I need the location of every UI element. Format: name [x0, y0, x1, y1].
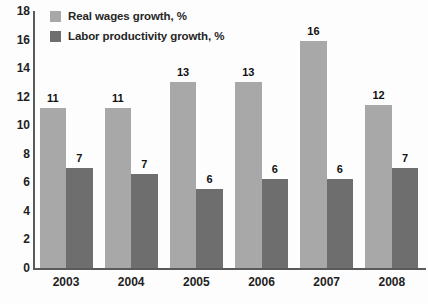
bar-group: 166 — [300, 11, 353, 268]
y-axis-tick-label: 12 — [0, 90, 30, 104]
bar-group: 127 — [365, 11, 418, 268]
y-axis-tick-label: 4 — [0, 204, 30, 218]
bar-value-label: 11 — [105, 92, 132, 104]
x-axis-tick-labels: 200320042005200620072008 — [35, 275, 426, 299]
bar-value-label: 6 — [262, 163, 289, 175]
y-axis-tick-label: 0 — [0, 261, 30, 275]
bar[interactable] — [105, 108, 132, 268]
x-axis-tick-label: 2006 — [227, 275, 296, 289]
bar[interactable] — [327, 179, 354, 268]
bar-group: 117 — [40, 11, 93, 268]
y-axis-tick-label: 6 — [0, 175, 30, 189]
legend-swatch-icon — [50, 11, 61, 22]
x-axis-tick-label: 2003 — [32, 275, 101, 289]
bar-value-label: 7 — [131, 158, 158, 170]
bar[interactable] — [365, 105, 392, 268]
x-axis-tick-label: 2008 — [357, 275, 426, 289]
bar-value-label: 16 — [300, 25, 327, 37]
bar-group: 136 — [235, 11, 288, 268]
y-axis-tick-label: 2 — [0, 232, 30, 246]
x-axis-tick-label: 2005 — [162, 275, 231, 289]
bar-value-label: 6 — [327, 163, 354, 175]
x-axis-line — [33, 268, 426, 270]
y-axis-tick-label: 8 — [0, 147, 30, 161]
bar[interactable] — [131, 174, 158, 268]
bar-value-label: 12 — [365, 89, 392, 101]
bar[interactable] — [40, 108, 67, 268]
bar[interactable] — [170, 82, 197, 268]
bar-value-label: 7 — [66, 152, 93, 164]
y-axis-tick-label: 18 — [0, 4, 30, 18]
x-axis-tick-label: 2004 — [97, 275, 166, 289]
y-axis-tick-label: 10 — [0, 118, 30, 132]
plot-area: 117117136136166127 — [35, 11, 426, 268]
bar[interactable] — [66, 168, 93, 268]
bar-group: 136 — [170, 11, 223, 268]
bar-value-label: 13 — [170, 66, 197, 78]
bar[interactable] — [196, 189, 223, 268]
bar-value-label: 7 — [392, 152, 419, 164]
bar-value-label: 13 — [235, 66, 262, 78]
bar-group: 117 — [105, 11, 158, 268]
legend-item[interactable]: Labor productivity growth, % — [50, 26, 224, 46]
bar[interactable] — [262, 179, 289, 268]
bar-chart: Real wages growth, %Labor productivity g… — [0, 0, 428, 304]
bar[interactable] — [392, 168, 419, 268]
bar-value-label: 11 — [40, 92, 67, 104]
legend-item-label: Labor productivity growth, % — [68, 30, 224, 42]
bar-value-label: 6 — [196, 173, 223, 185]
x-axis-tick-label: 2007 — [292, 275, 361, 289]
bar[interactable] — [235, 82, 262, 268]
legend-item[interactable]: Real wages growth, % — [50, 6, 224, 26]
bar[interactable] — [300, 41, 327, 268]
chart-legend: Real wages growth, %Labor productivity g… — [50, 6, 224, 46]
y-axis-tick-labels: 181614121086420 — [0, 0, 30, 304]
y-axis-tick-label: 14 — [0, 61, 30, 75]
legend-swatch-icon — [50, 31, 61, 42]
legend-item-label: Real wages growth, % — [68, 10, 187, 22]
y-axis-tick-label: 16 — [0, 33, 30, 47]
